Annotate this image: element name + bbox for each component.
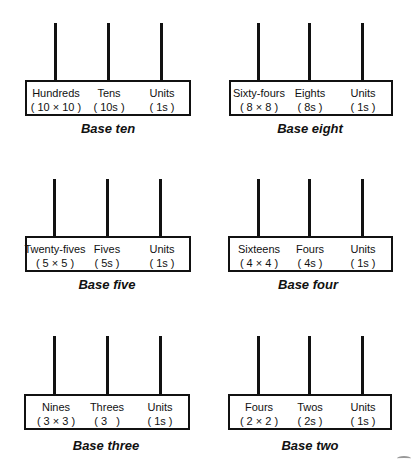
rod-tens — [107, 23, 110, 81]
column-name: Units — [130, 242, 194, 256]
place-value-box: Sixty-fours ( 8 × 8 ) Eights ( 8s ) Unit… — [229, 80, 393, 116]
place-value-box: Sixteens ( 4 × 4 ) Fours ( 4s ) Units ( … — [228, 236, 393, 272]
panel-title: Base three — [56, 438, 156, 453]
column-name: Units — [331, 86, 395, 100]
place-value-box: Nines ( 3 × 3 ) Threes ( 3 ) Units ( 1s … — [24, 394, 190, 430]
rod-sixty-fours — [257, 23, 260, 81]
abacus-base-three: Nines ( 3 × 3 ) Threes ( 3 ) Units ( 1s … — [0, 305, 205, 463]
rod-units — [361, 336, 364, 395]
place-value-box: Fours ( 2 × 2 ) Twos ( 2s ) Units ( 1s ) — [228, 394, 392, 430]
column-name: Units — [130, 86, 194, 100]
rod-hundreds — [54, 23, 57, 81]
rod-units — [160, 23, 163, 81]
column-units: Units ( 1s ) — [331, 242, 395, 270]
column-units: Units ( 1s ) — [331, 400, 395, 428]
panel-title: Base eight — [260, 121, 360, 136]
rod-twenty-fives — [53, 179, 56, 237]
rod-fives — [106, 179, 109, 237]
place-value-box: Hundreds ( 10 × 10 ) Tens ( 10s ) Units … — [25, 80, 191, 116]
rod-nines — [53, 336, 56, 395]
column-units: Units ( 1s ) — [130, 86, 194, 114]
column-value: ( 1s ) — [128, 414, 192, 428]
panel-title: Base two — [260, 438, 360, 453]
abacus-base-ten: Hundreds ( 10 × 10 ) Tens ( 10s ) Units … — [0, 0, 205, 150]
rod-fours — [257, 336, 260, 395]
abacus-base-two: Fours ( 2 × 2 ) Twos ( 2s ) Units ( 1s )… — [205, 305, 410, 463]
rod-twos — [308, 336, 311, 395]
column-units: Units ( 1s ) — [331, 86, 395, 114]
abacus-base-five: Twenty-fives ( 5 × 5 ) Fives ( 5s ) Unit… — [0, 155, 205, 305]
corner-mark — [397, 456, 411, 461]
place-value-box: Twenty-fives ( 5 × 5 ) Fives ( 5s ) Unit… — [25, 236, 191, 272]
column-value: ( 1s ) — [331, 100, 395, 114]
abacus-base-eight: Sixty-fours ( 8 × 8 ) Eights ( 8s ) Unit… — [205, 0, 410, 150]
column-name: Units — [128, 400, 192, 414]
rod-units — [159, 336, 162, 395]
rod-units — [159, 179, 162, 237]
rod-units — [361, 179, 364, 237]
column-value: ( 1s ) — [130, 256, 194, 270]
abacus-base-four: Sixteens ( 4 × 4 ) Fours ( 4s ) Units ( … — [205, 155, 410, 305]
column-name: Units — [331, 242, 395, 256]
panel-title: Base four — [258, 277, 358, 292]
column-value: ( 1s ) — [331, 414, 395, 428]
panel-title: Base five — [57, 277, 157, 292]
panel-title: Base ten — [58, 121, 158, 136]
column-value: ( 1s ) — [130, 100, 194, 114]
rod-fours — [308, 179, 311, 237]
rod-sixteens — [257, 179, 260, 237]
column-name: Units — [331, 400, 395, 414]
rod-eights — [308, 23, 311, 81]
rod-threes — [106, 336, 109, 395]
column-value: ( 1s ) — [331, 256, 395, 270]
column-units: Units ( 1s ) — [128, 400, 192, 428]
column-units: Units ( 1s ) — [130, 242, 194, 270]
rod-units — [361, 23, 364, 81]
